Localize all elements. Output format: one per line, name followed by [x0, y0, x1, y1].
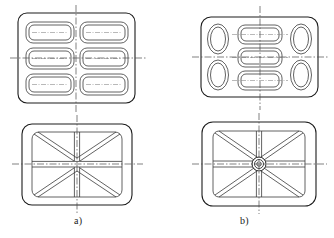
variant-b-label: b) — [240, 215, 249, 226]
b-rib-ul-a — [215, 133, 254, 160]
b-rib-ur-b — [261, 131, 299, 157]
b-rib-lr-a — [264, 168, 303, 195]
b-oval-br — [294, 63, 309, 87]
b-rib-ll-a — [215, 168, 254, 195]
b-oval-tr — [294, 27, 309, 51]
a-rib-lr-b — [77, 171, 116, 197]
variant-a-label: a) — [74, 215, 82, 226]
a-rib-ll-b — [38, 171, 77, 197]
a-rib-ll-a — [34, 168, 74, 195]
a-rib-lr-a — [80, 168, 120, 195]
variant-b-top-view — [192, 6, 328, 110]
variant-a-top-view — [10, 5, 147, 112]
b-rib-ur-a — [264, 133, 303, 160]
b-oval-bl — [211, 63, 226, 87]
technical-drawing: .outline { fill: none; stroke: #1c1c1c; … — [0, 0, 334, 238]
variant-b-bottom-view — [192, 113, 327, 214]
a-rib-ul-b — [38, 132, 77, 158]
a-rib-ul-a — [34, 134, 74, 161]
figure-canvas: .outline { fill: none; stroke: #1c1c1c; … — [0, 0, 334, 238]
b-oval-tl — [211, 27, 226, 51]
a-rib-ur-b — [77, 132, 116, 158]
b-rib-ul-b — [219, 131, 257, 157]
b-rib-lr-b — [261, 171, 299, 197]
b-rib-ll-b — [219, 171, 257, 197]
variant-a-bottom-view — [12, 115, 143, 214]
a-rib-ur-a — [80, 134, 120, 161]
